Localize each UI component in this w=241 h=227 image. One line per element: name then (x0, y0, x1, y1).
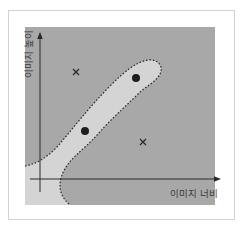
x-axis-arrow-icon (214, 176, 221, 182)
x-axis-label: 이미지 너비 (170, 188, 218, 199)
positive-sample-dot-icon (81, 127, 89, 135)
decision-region-diagram: 이미지 너비 이미지 높이 (0, 0, 241, 227)
y-axis-label: 이미지 높이 (23, 30, 34, 78)
positive-sample-dot-icon (132, 74, 140, 82)
